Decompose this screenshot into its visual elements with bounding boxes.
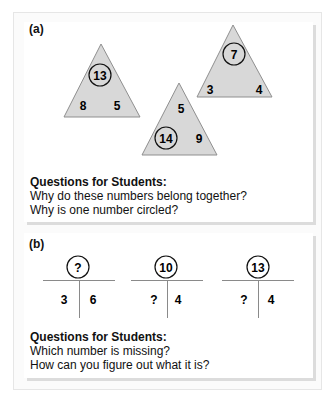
t-chart-3-left: ? <box>240 293 247 307</box>
t-chart-2-total: 10 <box>159 261 173 275</box>
t-chart-1-right: 6 <box>90 293 97 307</box>
t-chart-1: ? 3 6 <box>43 256 115 318</box>
t-chart-2-left: ? <box>150 293 157 307</box>
t-chart-3-total: 13 <box>251 261 265 275</box>
t-chart-2-right: 4 <box>175 293 182 307</box>
panel-b-questions-title: Questions for Students: <box>30 330 167 344</box>
t-chart-2: 10 ? 4 <box>131 256 203 318</box>
t-chart-3-right: 4 <box>268 293 275 307</box>
t-chart-1-left: 3 <box>61 293 68 307</box>
t-chart-1-total: ? <box>74 261 81 275</box>
panel-b-question-2: How can you figure out what it is? <box>30 358 209 372</box>
t-chart-3: 13 ? 4 <box>222 256 294 318</box>
panel-b-question-1: Which number is missing? <box>30 344 170 358</box>
